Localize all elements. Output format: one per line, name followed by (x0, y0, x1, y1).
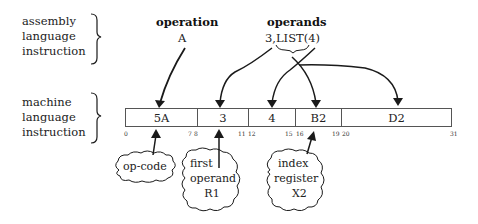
assembly-brace-icon (91, 14, 101, 64)
callout-line: R1 (190, 186, 234, 201)
callout-line: index (274, 156, 320, 171)
callout-opcode: op-code (123, 159, 167, 174)
arrow-3-to-r1 (220, 48, 272, 103)
arrow-list-to-b2 (292, 57, 316, 103)
arrow-operation-to-opcode (160, 48, 185, 103)
diagram-connectors (0, 0, 478, 224)
callout-line: register (274, 171, 320, 186)
callout-index-register: index register X2 (274, 156, 320, 201)
arrow-4-to-x2 (272, 48, 315, 103)
callout-line: first (190, 156, 234, 171)
machine-brace-icon (91, 93, 101, 143)
list-brace-icon (276, 45, 309, 53)
callout-line: op-code (123, 159, 167, 174)
callout-line: X2 (274, 186, 320, 201)
callout-line: operand (190, 171, 234, 186)
callout-first-operand: first operand R1 (190, 156, 234, 201)
